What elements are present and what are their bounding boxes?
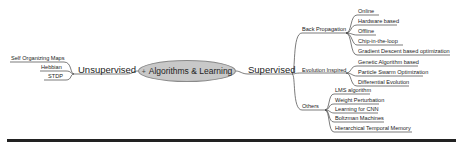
- leaf-lms-algorithm[interactable]: LMS algorithm: [335, 88, 371, 94]
- leaf-differential-evolution[interactable]: Differential Evolution: [358, 80, 409, 86]
- bottom-divider: [7, 139, 456, 142]
- group-back-propagation[interactable]: Back Propagation: [302, 27, 346, 33]
- leaf-stdp[interactable]: STDP: [48, 74, 63, 80]
- leaf-hardware-based[interactable]: Hardware based: [358, 19, 399, 25]
- branch-supervised[interactable]: Supervised: [248, 65, 296, 75]
- leaf-self-organizing-maps[interactable]: Self Organizing Maps: [11, 56, 64, 62]
- leaf-boltzman-machines[interactable]: Boltzman Machines: [335, 116, 384, 122]
- leaf-particle-swarm[interactable]: Particle Swarm Optimization: [358, 70, 428, 76]
- root-node[interactable]: + Algorithms & Learning: [138, 60, 236, 82]
- leaf-hierarchical-temporal-memory[interactable]: Hierarchical Temporal Memory: [335, 126, 411, 132]
- leaf-genetic-algorithm[interactable]: Genetic Algorithm based: [358, 60, 419, 66]
- leaf-gradient-descent[interactable]: Gradient Descent based optimization: [358, 49, 450, 55]
- leaf-weight-perturbation[interactable]: Weight Perturbation: [335, 98, 384, 104]
- group-evolution-inspired[interactable]: Evolution Inspired: [302, 68, 346, 74]
- leaf-offline[interactable]: Offline: [358, 29, 374, 35]
- leaf-hebbian[interactable]: Hebbian: [41, 65, 62, 71]
- group-others[interactable]: Others: [302, 104, 319, 110]
- leaf-chip-in-the-loop[interactable]: Chip-in-the-loop: [358, 39, 398, 45]
- leaf-online[interactable]: Online: [358, 9, 374, 15]
- leaf-learning-for-cnn[interactable]: Learning for CNN: [335, 107, 379, 113]
- branch-unsupervised[interactable]: Unsupervised: [78, 65, 136, 75]
- collapse-marker-icon[interactable]: +: [142, 68, 146, 75]
- root-node-label: Algorithms & Learning: [149, 66, 233, 76]
